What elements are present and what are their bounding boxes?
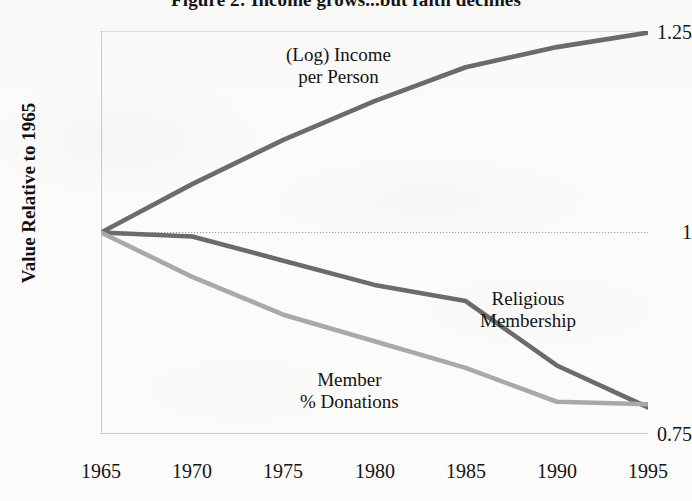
x-tick-label-1980: 1980 xyxy=(335,460,415,483)
x-tick-label-1990: 1990 xyxy=(517,460,597,483)
x-tick-label-1985: 1985 xyxy=(426,460,506,483)
annotation-membership-line2: Membership xyxy=(480,310,576,332)
y-axis-title: Value Relative to 1965 xyxy=(18,78,40,308)
x-tick-label-1970: 1970 xyxy=(152,460,232,483)
annotation-membership-line1: Religious xyxy=(480,288,576,310)
x-tick-label-1965: 1965 xyxy=(61,460,141,483)
annotation-income-line1: (Log) Income xyxy=(286,44,391,66)
annotation-income-line2: per Person xyxy=(286,66,391,88)
figure-title: Figure 2: Income grows...but faith decli… xyxy=(0,0,692,11)
annotation-donations-line2: % Donations xyxy=(300,391,399,413)
annotation-member-donations: Member % Donations xyxy=(300,369,399,414)
annotation-income: (Log) Income per Person xyxy=(286,44,391,89)
x-tick-label-1995: 1995 xyxy=(608,460,688,483)
x-tick-label-1975: 1975 xyxy=(243,460,323,483)
annotation-religious-membership: Religious Membership xyxy=(480,288,576,333)
annotation-donations-line1: Member xyxy=(300,369,399,391)
